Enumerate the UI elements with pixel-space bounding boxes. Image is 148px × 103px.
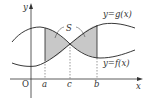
curve-f-label: y=f(x)	[102, 58, 130, 68]
point-c-label: c	[67, 79, 72, 89]
shaded-region-right	[70, 25, 97, 58]
y-axis-arrow-icon	[29, 3, 33, 9]
origin-label: O	[22, 79, 29, 89]
curve-g-label: y=g(x)	[102, 9, 132, 19]
y-axis-label: y	[22, 2, 28, 12]
point-a-label: a	[42, 79, 47, 89]
x-axis-label: x	[136, 81, 141, 91]
area-between-curves-diagram: S y=g(x) y=f(x) y x O a c b	[0, 0, 148, 103]
point-b-label: b	[94, 79, 99, 89]
region-label: S	[66, 23, 72, 33]
